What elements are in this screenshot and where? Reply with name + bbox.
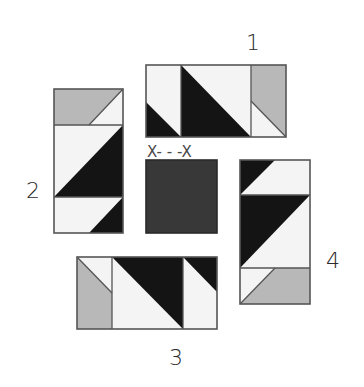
- unit-2: [54, 89, 123, 233]
- unit-4-label: 4: [326, 248, 340, 273]
- seam-label: X- - -X: [147, 143, 192, 161]
- unit-3: [77, 257, 217, 329]
- unit-2-label: 2: [26, 178, 40, 203]
- center-square: [146, 160, 217, 233]
- unit-4: [240, 160, 310, 304]
- unit-1: [146, 65, 286, 137]
- quilt-diagram: 1 2 X- - -X 4: [0, 0, 364, 387]
- unit-3-label: 3: [169, 345, 183, 370]
- unit-1-label: 1: [246, 30, 260, 55]
